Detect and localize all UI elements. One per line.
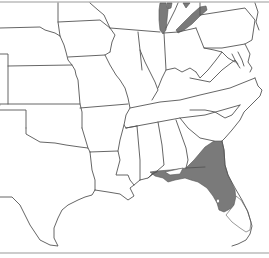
range-map: [0, 0, 269, 258]
map-svg: [0, 0, 269, 258]
lake-michigan: [159, 3, 168, 34]
small-lake: [216, 199, 219, 203]
unshaded-panhandle-strip: [165, 168, 183, 175]
lake-huron-part: [167, 3, 172, 9]
lake-ontario-edge: [183, 3, 190, 8]
